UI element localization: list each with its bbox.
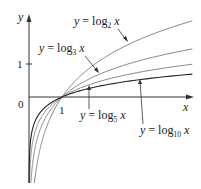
log-functions-chart: y x 0 1 1 y = log2 x y = log3 x y = log5… [0, 0, 201, 189]
x-axis-label: x [182, 100, 189, 114]
x-axis-arrow-icon [186, 95, 194, 100]
origin-label: 0 [18, 98, 24, 110]
annotation-log2: y = log2 x [73, 14, 120, 30]
annotation-log10-pointer [140, 81, 143, 124]
annotation-log3: y = log3 x [38, 41, 85, 57]
annotation-log5: y = log5 x [79, 108, 126, 124]
x-tick-label-1: 1 [59, 104, 65, 116]
annotation-log5-arrow-icon [87, 85, 91, 90]
annotation-log10: y = log10 x [139, 123, 190, 139]
y-axis-arrow-icon [27, 14, 32, 22]
y-tick-label-1: 1 [17, 58, 23, 70]
chart-canvas: y x 0 1 1 y = log2 x y = log3 x y = log5… [0, 0, 201, 189]
y-axis-label: y [17, 10, 24, 24]
